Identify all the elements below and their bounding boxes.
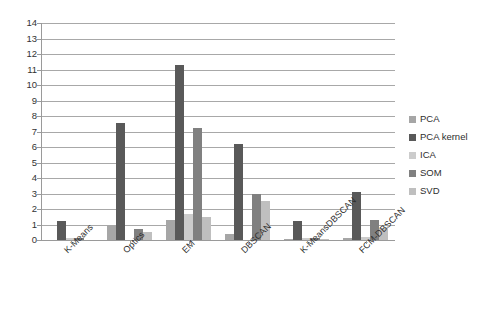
legend-swatch-icon — [409, 116, 416, 123]
bar — [107, 225, 116, 241]
y-axis-tick-mark — [37, 147, 41, 148]
y-axis-tick-mark — [37, 132, 41, 133]
y-axis-tick-label: 10 — [7, 80, 37, 90]
bar — [175, 65, 184, 240]
y-axis-tick-label: 4 — [7, 173, 37, 183]
bar — [193, 128, 202, 240]
y-axis-tick-mark — [37, 70, 41, 71]
y-axis-tick-mark — [37, 23, 41, 24]
legend-label: PCA — [420, 114, 440, 124]
y-axis-tick-label: 2 — [7, 204, 37, 214]
y-axis-tick-label: 13 — [7, 34, 37, 44]
y-axis-tick-label: 8 — [7, 111, 37, 121]
legend-item[interactable]: PCA — [409, 110, 487, 128]
legend-item[interactable]: PCA kernel — [409, 128, 487, 146]
bar-group — [277, 23, 336, 240]
bar-group — [41, 23, 100, 240]
bar — [234, 144, 243, 240]
legend-item[interactable]: SVD — [409, 182, 487, 200]
y-axis-tick-mark — [37, 101, 41, 102]
y-axis-tick-label: 1 — [7, 220, 37, 230]
legend-swatch-icon — [409, 188, 416, 195]
bar — [57, 221, 66, 240]
y-axis-tick-label: 6 — [7, 142, 37, 152]
y-axis-tick-label: 14 — [7, 18, 37, 28]
y-axis-tick-mark — [37, 225, 41, 226]
bar-group — [159, 23, 218, 240]
bar — [166, 220, 175, 240]
y-axis-tick-mark — [37, 39, 41, 40]
legend-swatch-icon — [409, 152, 416, 159]
legend-item[interactable]: ICA — [409, 146, 487, 164]
bar — [293, 221, 302, 240]
bar-chart: 14131211109876543210 K-MeansOpticsEMDBSC… — [0, 0, 489, 313]
y-axis-tick-label: 3 — [7, 189, 37, 199]
bar — [184, 214, 193, 240]
x-axis-tick-mark — [189, 240, 190, 244]
y-axis-tick-mark — [37, 178, 41, 179]
y-axis-tick-label: 7 — [7, 127, 37, 137]
y-axis-tick-label: 12 — [7, 49, 37, 59]
legend-label: PCA kernel — [420, 132, 468, 142]
x-axis-tick-mark — [366, 240, 367, 244]
y-axis-tick-label: 9 — [7, 96, 37, 106]
legend-item[interactable]: SOM — [409, 164, 487, 182]
y-axis-tick-mark — [37, 54, 41, 55]
chart-legend: PCAPCA kernelICASOMSVD — [409, 110, 487, 200]
legend-swatch-icon — [409, 134, 416, 141]
y-axis-tick-label: 5 — [7, 158, 37, 168]
x-axis-line — [41, 240, 395, 241]
y-axis-tick-mark — [37, 240, 41, 241]
bar — [116, 123, 125, 240]
legend-label: SOM — [420, 168, 442, 178]
y-axis-tick-label: 11 — [7, 65, 37, 75]
y-axis-tick-mark — [37, 116, 41, 117]
legend-label: SVD — [420, 186, 440, 196]
y-axis-tick-mark — [37, 85, 41, 86]
y-axis-line — [41, 23, 42, 241]
bar-group — [218, 23, 277, 240]
y-axis-tick-mark — [37, 163, 41, 164]
y-axis-tick-mark — [37, 209, 41, 210]
x-axis-tick-mark — [71, 240, 72, 244]
x-axis-tick-mark — [248, 240, 249, 244]
legend-swatch-icon — [409, 170, 416, 177]
y-axis-tick-label: 0 — [7, 235, 37, 245]
bar — [202, 217, 211, 240]
bar-group — [100, 23, 159, 240]
legend-label: ICA — [420, 150, 436, 160]
y-axis-labels: 14131211109876543210 — [0, 0, 37, 313]
x-axis-tick-mark — [307, 240, 308, 244]
x-axis-tick-mark — [130, 240, 131, 244]
y-axis-tick-mark — [37, 194, 41, 195]
